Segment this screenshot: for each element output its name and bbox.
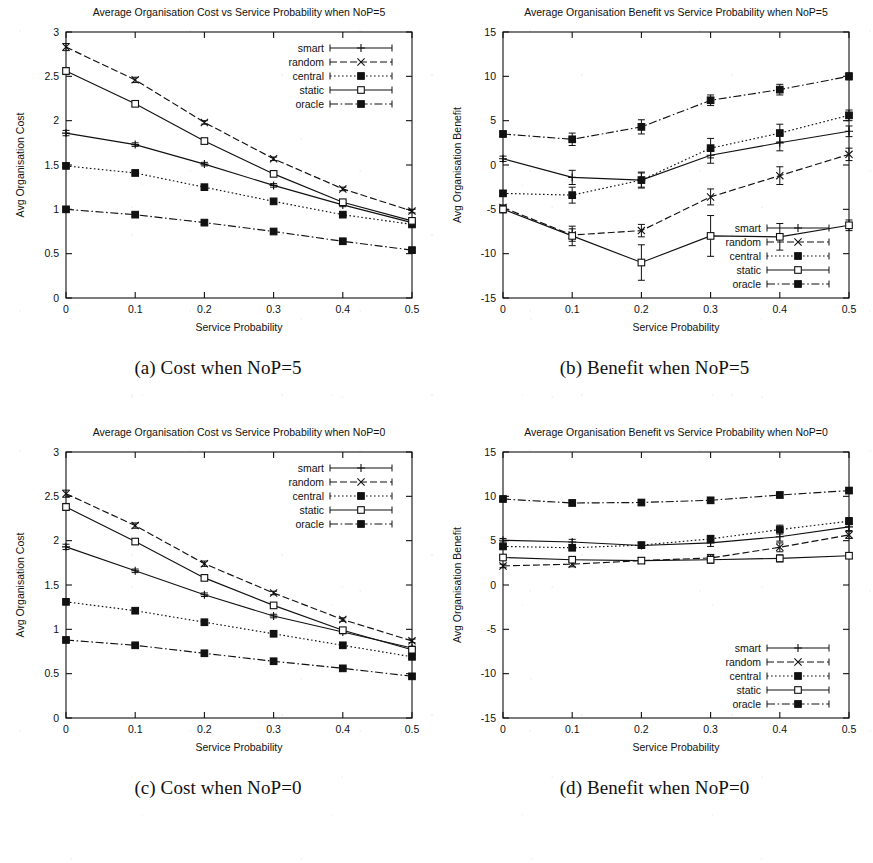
legend-label-oracle: oracle <box>732 278 761 290</box>
x-tick-label: 0.1 <box>564 303 579 315</box>
legend-label-random: random <box>288 56 324 68</box>
x-tick-label: 0.4 <box>335 723 350 735</box>
y-tick-label: 2.5 <box>44 490 59 502</box>
y-tick-label: 3 <box>53 26 59 38</box>
legend-label-static: static <box>736 264 761 276</box>
y-tick-label: 1 <box>53 623 59 635</box>
x-tick-label: 0.1 <box>128 303 143 315</box>
series-oracle <box>63 637 416 680</box>
legend-label-smart: smart <box>734 222 760 234</box>
caption-c: (c) Cost when NoP=0 <box>134 777 301 799</box>
y-tick-label: 0.5 <box>44 667 59 679</box>
y-axis-title: Avg Organisation Cost <box>14 112 26 217</box>
x-tick-label: 0.3 <box>703 723 718 735</box>
series-central <box>63 599 416 661</box>
x-tick-label: 0 <box>500 723 506 735</box>
legend-label-static: static <box>299 504 324 516</box>
x-axis-title: Service Probability <box>196 321 284 333</box>
subfigure-c: Average Organisation Cost vs Service Pro… <box>0 420 436 840</box>
legend-label-random: random <box>288 476 324 488</box>
y-tick-label: 10 <box>484 70 496 82</box>
plot-frame <box>66 32 412 298</box>
y-axis-title: Avg Organisation Cost <box>14 532 26 637</box>
caption-d: (d) Benefit when NoP=0 <box>560 777 750 799</box>
series-oracle <box>499 73 852 146</box>
legend-label-central: central <box>292 490 324 502</box>
series-central <box>499 110 852 203</box>
series-smart <box>499 126 853 187</box>
chart-title: Average Organisation Cost vs Service Pro… <box>93 6 386 18</box>
x-tick-label: 0.4 <box>772 303 787 315</box>
x-tick-label: 0.1 <box>564 723 579 735</box>
chart-b-svg: Average Organisation Benefit vs Service … <box>445 0 865 355</box>
series-static <box>499 552 852 563</box>
x-tick-label: 0.2 <box>634 723 649 735</box>
legend: smartrandomcentralstaticoracle <box>725 642 829 710</box>
legend-label-smart: smart <box>734 642 760 654</box>
series-smart <box>62 129 416 227</box>
chart-a-svg: Average Organisation Cost vs Service Pro… <box>8 0 428 355</box>
y-tick-label: -5 <box>486 203 495 215</box>
y-tick-label: 15 <box>484 26 496 38</box>
legend-label-central: central <box>292 70 324 82</box>
x-tick-label: 0.5 <box>841 723 856 735</box>
x-axis-title: Service Probability <box>632 321 720 333</box>
x-tick-label: 0.1 <box>128 723 143 735</box>
chart-title: Average Organisation Cost vs Service Pro… <box>93 426 386 438</box>
plot-c: Average Organisation Cost vs Service Pro… <box>8 420 428 775</box>
subfigure-a: Average Organisation Cost vs Service Pro… <box>0 0 436 420</box>
y-tick-label: 5 <box>490 534 496 546</box>
legend: smartrandomcentralstaticoracle <box>725 222 829 290</box>
x-tick-label: 0.3 <box>703 303 718 315</box>
x-axis-title: Service Probability <box>196 741 284 753</box>
y-tick-label: -15 <box>480 712 495 724</box>
series-smart <box>499 523 853 550</box>
y-tick-label: 0 <box>53 292 59 304</box>
legend-label-smart: smart <box>298 462 324 474</box>
x-tick-label: 0.4 <box>335 303 350 315</box>
y-tick-label: 0 <box>490 159 496 171</box>
y-tick-label: 2.5 <box>44 70 59 82</box>
y-tick-label: 15 <box>484 446 496 458</box>
legend: smartrandomcentralstaticoracle <box>288 462 392 530</box>
y-tick-label: 2 <box>53 114 59 126</box>
legend-label-central: central <box>729 250 761 262</box>
series-random <box>499 531 852 569</box>
y-axis-title: Avg Organisation Benefit <box>451 107 463 223</box>
caption-b: (b) Benefit when NoP=5 <box>560 357 750 379</box>
y-tick-label: 1.5 <box>44 159 59 171</box>
chart-d-svg: Average Organisation Benefit vs Service … <box>445 420 865 775</box>
legend-label-static: static <box>299 84 324 96</box>
chart-c-svg: Average Organisation Cost vs Service Pro… <box>8 420 428 775</box>
chart-title: Average Organisation Benefit vs Service … <box>524 6 828 18</box>
y-axis-title: Avg Organisation Benefit <box>451 527 463 643</box>
caption-a: (a) Cost when NoP=5 <box>134 357 301 379</box>
plot-frame <box>66 452 412 718</box>
y-tick-label: 1 <box>53 203 59 215</box>
chart-title: Average Organisation Benefit vs Service … <box>524 426 828 438</box>
x-tick-label: 0.5 <box>405 723 420 735</box>
y-tick-label: 1.5 <box>44 579 59 591</box>
x-tick-label: 0.5 <box>841 303 856 315</box>
legend-label-smart: smart <box>298 42 324 54</box>
x-tick-label: 0.5 <box>405 303 420 315</box>
legend-label-random: random <box>725 236 761 248</box>
y-tick-label: 10 <box>484 490 496 502</box>
plot-d: Average Organisation Benefit vs Service … <box>445 420 865 775</box>
y-tick-label: -15 <box>480 292 495 304</box>
y-tick-label: 0 <box>490 579 496 591</box>
subfigure-d: Average Organisation Benefit vs Service … <box>436 420 873 840</box>
subfigure-b: Average Organisation Benefit vs Service … <box>436 0 873 420</box>
series-oracle <box>499 487 852 506</box>
legend-label-random: random <box>725 656 761 668</box>
legend-label-oracle: oracle <box>295 98 324 110</box>
y-tick-label: -10 <box>480 247 495 259</box>
legend-label-static: static <box>736 684 761 696</box>
legend-label-central: central <box>729 670 761 682</box>
y-tick-label: 0.5 <box>44 247 59 259</box>
series-oracle <box>63 206 416 253</box>
figure-grid: Average Organisation Cost vs Service Pro… <box>0 0 873 863</box>
x-tick-label: 0 <box>63 303 69 315</box>
y-tick-label: -5 <box>486 623 495 635</box>
x-tick-label: 0.3 <box>266 723 281 735</box>
